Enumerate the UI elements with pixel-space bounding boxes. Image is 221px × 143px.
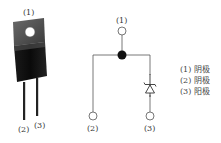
diode-symbol bbox=[144, 74, 156, 97]
pin-2-terminal bbox=[89, 112, 97, 120]
schematic bbox=[89, 27, 154, 120]
legend-item: (2) 阴极 bbox=[180, 75, 210, 86]
mounting-hole bbox=[25, 27, 35, 37]
package-pin-3-label: (3) bbox=[34, 121, 45, 130]
package-pin-1-label: (1) bbox=[23, 8, 34, 17]
schematic-pin-3-label: (3) bbox=[144, 124, 155, 133]
pin-3-terminal bbox=[146, 112, 154, 120]
schematic-pin-1-label: (1) bbox=[116, 16, 127, 25]
package-pin-2-label: (2) bbox=[18, 125, 29, 134]
lead-2 bbox=[23, 82, 25, 120]
lead-3 bbox=[36, 78, 38, 116]
junction-node bbox=[118, 51, 127, 60]
legend-item: (1) 阴极 bbox=[180, 64, 210, 75]
legend-item: (3) 阳极 bbox=[180, 86, 210, 97]
pin-legend: (1) 阴极 (2) 阴极 (3) 阳极 bbox=[180, 64, 210, 97]
pin-1-terminal bbox=[118, 27, 126, 35]
schematic-pin-2-label: (2) bbox=[87, 124, 98, 133]
